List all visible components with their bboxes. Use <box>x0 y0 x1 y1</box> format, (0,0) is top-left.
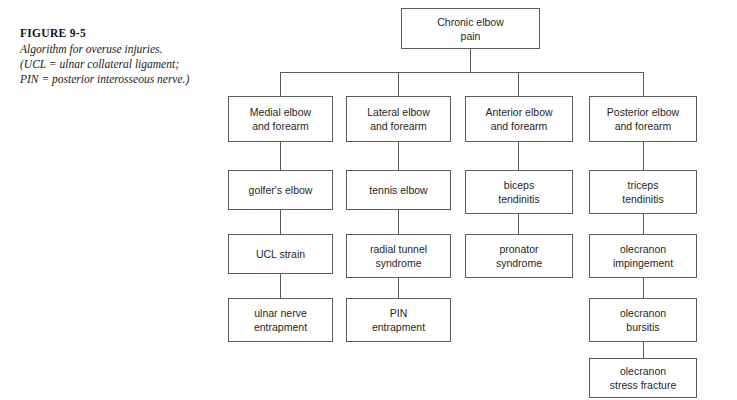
node-line: biceps <box>504 178 534 192</box>
node-line: olecranon <box>620 242 666 256</box>
node-line: tennis elbow <box>369 183 427 197</box>
node-line: olecranon <box>620 306 666 320</box>
node-line: and forearm <box>615 119 672 133</box>
node-line: PIN <box>390 306 408 320</box>
connector-root-stem <box>470 49 471 72</box>
flowchart-diagram: Chronic elbow pain Medial elbow and fore… <box>0 0 737 400</box>
figure-root: FIGURE 9-5 Algorithm for overuse injurie… <box>0 0 737 400</box>
connector-distributor-bar <box>280 72 643 73</box>
node-anterior-elbow-and-forearm: Anterior elbow and forearm <box>465 96 573 142</box>
node-line: syndrome <box>496 256 542 270</box>
node-line: and forearm <box>491 119 548 133</box>
node-olecranon-impingement: olecranon impingement <box>589 234 697 278</box>
node-olecranon-bursitis: olecranon bursitis <box>589 298 697 342</box>
node-line: Chronic elbow <box>437 15 504 29</box>
node-line: pain <box>461 29 481 43</box>
connector-posterior-2 <box>643 214 644 234</box>
node-line: entrapment <box>254 320 307 334</box>
node-line: triceps <box>628 178 659 192</box>
node-line: and forearm <box>370 119 427 133</box>
connector-lateral-1 <box>398 142 399 170</box>
connector-drop-posterior <box>643 72 644 96</box>
node-line: Posterior elbow <box>607 105 679 119</box>
node-biceps-tendinitis: biceps tendinitis <box>465 170 573 214</box>
node-ucl-strain: UCL strain <box>228 234 333 274</box>
node-pin-entrapment: PIN entrapment <box>346 298 451 342</box>
node-line: ulnar nerve <box>254 306 307 320</box>
node-line: syndrome <box>375 256 421 270</box>
node-line: pronator <box>499 242 538 256</box>
node-triceps-tendinitis: triceps tendinitis <box>589 170 697 214</box>
connector-drop-medial <box>280 72 281 96</box>
node-line: bursitis <box>626 320 659 334</box>
node-line: stress fracture <box>610 378 677 392</box>
node-line: entrapment <box>372 320 425 334</box>
node-posterior-elbow-and-forearm: Posterior elbow and forearm <box>589 96 697 142</box>
node-chronic-elbow-pain: Chronic elbow pain <box>401 8 540 49</box>
connector-posterior-4 <box>643 342 644 358</box>
connector-posterior-1 <box>643 142 644 170</box>
connector-medial-1 <box>280 142 281 170</box>
node-line: tendinitis <box>622 192 663 206</box>
node-medial-elbow-and-forearm: Medial elbow and forearm <box>228 96 333 142</box>
node-line: golfer's elbow <box>249 183 313 197</box>
node-lateral-elbow-and-forearm: Lateral elbow and forearm <box>346 96 451 142</box>
connector-anterior-2 <box>518 214 519 234</box>
node-line: Lateral elbow <box>367 105 429 119</box>
connector-drop-lateral <box>398 72 399 96</box>
node-line: and forearm <box>252 119 309 133</box>
node-line: impingement <box>613 256 673 270</box>
connector-lateral-2 <box>398 210 399 234</box>
node-ulnar-nerve-entrapment: ulnar nerve entrapment <box>228 298 333 342</box>
connector-anterior-1 <box>518 142 519 170</box>
connector-lateral-3 <box>398 278 399 298</box>
node-tennis-elbow: tennis elbow <box>346 170 451 210</box>
node-golfers-elbow: golfer's elbow <box>228 170 333 210</box>
node-line: radial tunnel <box>370 242 427 256</box>
node-line: Anterior elbow <box>485 105 552 119</box>
node-line: UCL strain <box>256 247 305 261</box>
node-pronator-syndrome: pronator syndrome <box>465 234 573 278</box>
node-radial-tunnel-syndrome: radial tunnel syndrome <box>346 234 451 278</box>
node-olecranon-stress-fracture: olecranon stress fracture <box>589 358 697 398</box>
connector-medial-3 <box>280 274 281 298</box>
node-line: tendinitis <box>498 192 539 206</box>
connector-medial-2 <box>280 210 281 234</box>
connector-drop-anterior <box>518 72 519 96</box>
node-line: olecranon <box>620 364 666 378</box>
node-line: Medial elbow <box>250 105 311 119</box>
connector-posterior-3 <box>643 278 644 298</box>
